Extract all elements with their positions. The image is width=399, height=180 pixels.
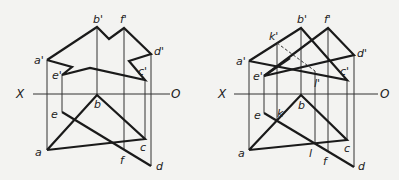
left-label-d-prime: d'	[154, 45, 164, 58]
left-axis-o-label: O	[171, 87, 180, 101]
right-axis-x-label: X	[217, 87, 227, 101]
right-label-b: b	[298, 99, 305, 112]
right-label-f-prime: f'	[324, 13, 331, 26]
right-figure: a' b' f' d' e' c' k' l' X O a b c d e f …	[217, 13, 389, 173]
left-label-e-prime: e'	[52, 69, 62, 82]
right-label-f: f	[323, 155, 329, 168]
left-label-a-prime: a'	[34, 54, 44, 67]
right-label-l: l	[309, 147, 312, 160]
right-label-d-prime: d'	[357, 47, 367, 60]
right-label-c: c	[344, 142, 350, 155]
right-label-e: e	[254, 109, 261, 122]
left-figure: a' b' f' d' e' c' X O a b c d e f	[15, 13, 180, 173]
left-label-e: e	[51, 108, 58, 121]
left-label-a: a	[35, 146, 42, 159]
right-label-a-prime: a'	[236, 55, 246, 68]
right-elevation-triangle-abc	[249, 28, 347, 80]
right-label-e-prime: e'	[253, 70, 263, 83]
left-label-c: c	[140, 141, 146, 154]
right-label-k-prime: k'	[269, 30, 278, 43]
left-label-b-prime: b'	[93, 13, 103, 26]
right-label-l-prime: l'	[314, 77, 320, 90]
left-label-f-prime: f'	[120, 13, 127, 26]
left-label-c-prime: c'	[138, 65, 147, 78]
right-label-a: a	[238, 147, 245, 160]
right-axis-o-label: O	[380, 87, 389, 101]
left-label-b: b	[94, 98, 101, 111]
left-label-d: d	[156, 160, 164, 173]
right-label-c-prime: c'	[340, 65, 349, 78]
left-label-f: f	[120, 154, 126, 167]
diagram-svg: a' b' f' d' e' c' X O a b c d e f	[0, 0, 399, 180]
right-label-b-prime: b'	[297, 13, 307, 26]
projection-diagram: a' b' f' d' e' c' X O a b c d e f	[0, 0, 399, 180]
right-label-k: k	[277, 107, 284, 120]
left-elevation-outline	[47, 27, 151, 80]
right-label-d: d	[358, 160, 366, 173]
left-axis-x-label: X	[15, 87, 25, 101]
